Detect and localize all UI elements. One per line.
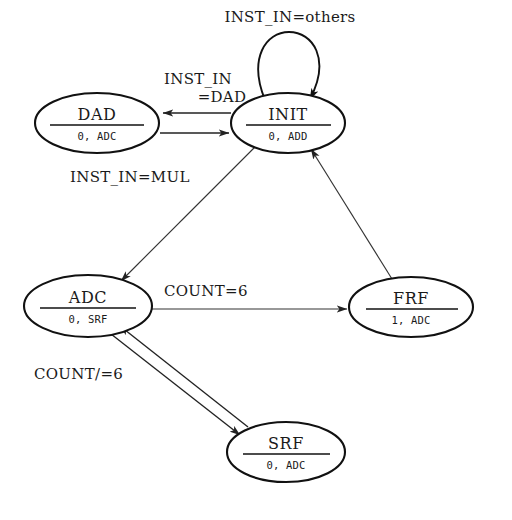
edge-label-init-to-adc: INST_IN=MUL [70, 168, 190, 186]
state-name-adc: ADC [68, 288, 107, 307]
edge-line-frf-to-init [311, 149, 392, 279]
state-node-frf[interactable]: FRF 1, ADC [349, 277, 473, 337]
edge-label-init-to-dad-line2: =DAD [198, 88, 247, 106]
transition-adc-to-frf: COUNT=6 [152, 282, 347, 309]
state-node-dad[interactable]: DAD 0, ADC [35, 93, 159, 153]
transition-srf-to-adc [120, 326, 248, 427]
state-output-adc: 0, SRF [68, 313, 107, 325]
edge-label-adc-to-srf: COUNT/=6 [34, 365, 123, 383]
transition-frf-to-init [311, 149, 392, 279]
edge-label-adc-to-frf: COUNT=6 [164, 282, 248, 300]
edge-label-init-to-dad-line1: INST_IN [164, 70, 232, 88]
state-node-srf[interactable]: SRF 0, ADC [227, 422, 345, 482]
transition-init-to-adc: INST_IN=MUL [70, 147, 255, 281]
state-output-frf: 1, ADC [391, 314, 430, 326]
state-output-dad: 0, ADC [77, 130, 116, 142]
state-name-frf: FRF [393, 289, 429, 308]
transition-adc-to-srf: COUNT/=6 [34, 334, 240, 435]
state-output-srf: 0, ADC [266, 459, 305, 471]
state-name-init: INIT [268, 105, 308, 124]
fsm-canvas: INST_IN=others INST_IN =DAD INST_IN=MUL … [0, 0, 512, 520]
state-node-adc[interactable]: ADC 0, SRF [24, 275, 152, 337]
edge-label-init-self: INST_IN=others [224, 8, 355, 26]
edge-line-adc-to-srf [111, 334, 240, 435]
transition-init-to-dad: INST_IN =DAD [163, 70, 246, 113]
edge-line-srf-to-adc [120, 326, 248, 427]
state-name-dad: DAD [77, 105, 116, 124]
state-node-init[interactable]: INIT 0, ADD [231, 93, 345, 153]
edge-line-init-self [258, 32, 319, 100]
state-output-init: 0, ADD [268, 130, 307, 142]
transition-init-self-loop: INST_IN=others [224, 8, 355, 100]
state-machine-diagram: INST_IN=others INST_IN =DAD INST_IN=MUL … [0, 0, 512, 520]
state-name-srf: SRF [268, 434, 304, 453]
